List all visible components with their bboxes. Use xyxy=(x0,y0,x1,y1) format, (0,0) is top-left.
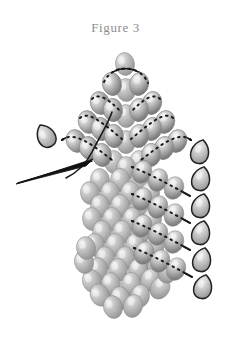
turn-bead-right-5 xyxy=(191,246,214,274)
figure-root: Figure 3 xyxy=(0,0,231,339)
turn-bead-right-4 xyxy=(190,219,213,247)
beadwork-diagram xyxy=(0,0,231,339)
bead xyxy=(114,51,136,76)
turn-bead-right-2 xyxy=(190,165,213,193)
turn-bead-right-6 xyxy=(192,273,215,301)
turn-bead-right-3 xyxy=(190,192,213,220)
needle-layer xyxy=(16,159,93,184)
needle-shaft xyxy=(18,161,92,183)
turn-bead-left xyxy=(32,121,59,151)
turn-bead-right-1 xyxy=(189,138,212,166)
